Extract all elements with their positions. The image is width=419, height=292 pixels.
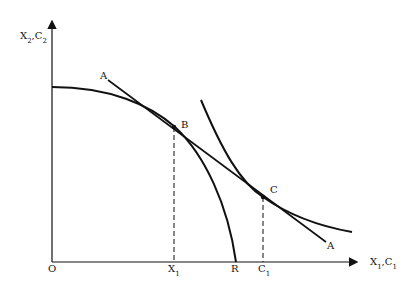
- r-tick-label: R: [231, 263, 239, 274]
- y-axis-label: X2,C2: [20, 30, 47, 45]
- line-a-bottom-label: A: [326, 240, 335, 251]
- x1-tick-label: X1: [168, 263, 180, 278]
- origin-label: O: [48, 263, 56, 274]
- point-b-label: B: [181, 119, 188, 130]
- line-a-top-label: A: [99, 70, 108, 81]
- point-c: [261, 195, 265, 199]
- point-c-label: C: [270, 184, 278, 195]
- diagram-canvas: X2,C2 X1,C1 O X1 R C1 A A B C: [0, 0, 419, 292]
- price-line-aa: [108, 80, 326, 242]
- x-axis-label: X1,C1: [370, 256, 397, 271]
- point-b: [172, 125, 176, 129]
- production-possibility-curve: [52, 87, 236, 262]
- c1-tick-label: C1: [258, 263, 270, 278]
